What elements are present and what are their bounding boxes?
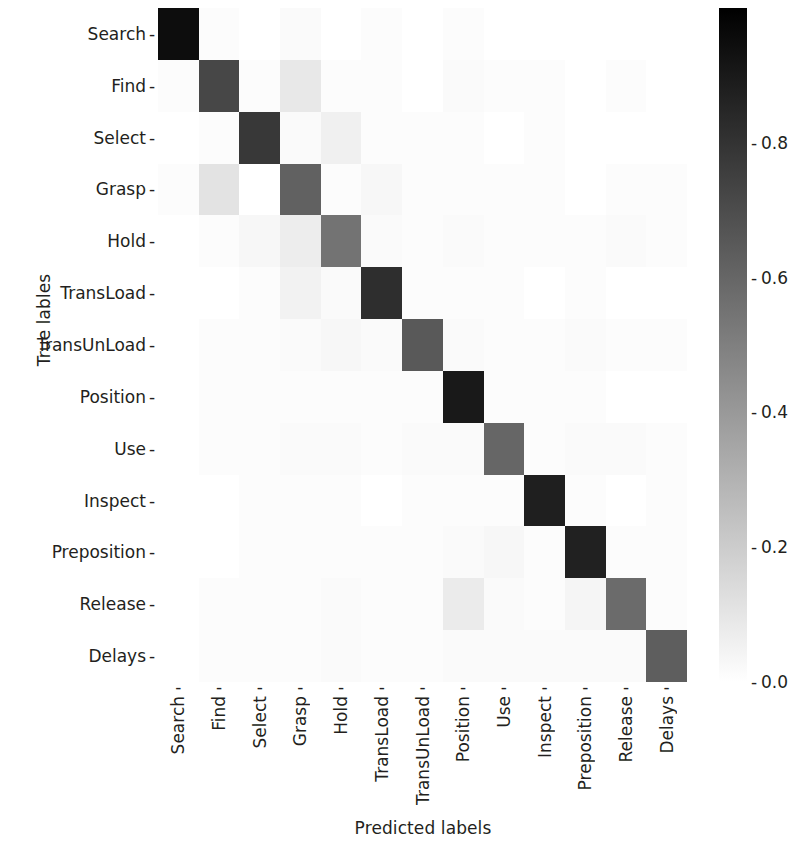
- x-tick-mark: -: [494, 682, 514, 692]
- heatmap-cell: [280, 578, 321, 630]
- heatmap-cell: [361, 526, 402, 578]
- y-tick-label-group: Search-Find-Select-Grasp-Hold-TransLoad-…: [0, 8, 158, 682]
- x-tick-text: TransUnLoad: [413, 696, 433, 805]
- heatmap-cell: [199, 475, 240, 527]
- colorbar-tick: -0.8: [747, 133, 788, 153]
- colorbar-tick-text: 0.0: [761, 672, 788, 692]
- y-tick-label: Use-: [114, 439, 158, 459]
- heatmap-cell: [565, 371, 606, 423]
- y-tick-text: Search: [88, 24, 146, 44]
- heatmap-cell: [565, 475, 606, 527]
- heatmap-row: [158, 526, 687, 578]
- y-tick-mark: -: [146, 439, 158, 459]
- heatmap-cell: [280, 267, 321, 319]
- heatmap-cell: [402, 371, 443, 423]
- heatmap-cell: [606, 630, 647, 682]
- colorbar-tick-text: 0.2: [761, 537, 788, 557]
- heatmap-cell: [524, 578, 565, 630]
- x-tick-text: Preposition: [575, 696, 595, 790]
- heatmap-cell: [606, 319, 647, 371]
- heatmap-cell: [646, 630, 687, 682]
- heatmap-cell: [402, 423, 443, 475]
- heatmap-cell: [158, 526, 199, 578]
- y-tick-mark: -: [146, 491, 158, 511]
- colorbar-tick-mark: -: [747, 133, 761, 153]
- heatmap-cell: [443, 112, 484, 164]
- heatmap-cell: [158, 475, 199, 527]
- heatmap-row: [158, 578, 687, 630]
- x-tick-label: -TransLoad: [372, 682, 392, 808]
- heatmap-row: [158, 112, 687, 164]
- heatmap-cell: [565, 526, 606, 578]
- heatmap-cell: [361, 578, 402, 630]
- x-tick-label: -TransUnLoad: [413, 682, 433, 808]
- heatmap-cell: [646, 319, 687, 371]
- y-tick-label: TransUnLoad-: [37, 335, 158, 355]
- x-tick-label: -Preposition: [575, 682, 595, 808]
- heatmap-cell: [158, 267, 199, 319]
- heatmap-row: [158, 8, 687, 60]
- x-tick-text: Inspect: [535, 696, 555, 758]
- heatmap-cell: [606, 578, 647, 630]
- heatmap-cell: [443, 371, 484, 423]
- heatmap-cell: [158, 164, 199, 216]
- heatmap-cell: [606, 60, 647, 112]
- heatmap-cell: [565, 578, 606, 630]
- heatmap-row: [158, 60, 687, 112]
- heatmap-cell: [565, 60, 606, 112]
- colorbar-tick-mark: -: [747, 268, 761, 288]
- x-tick-text: Release: [616, 696, 636, 762]
- heatmap-cell: [402, 164, 443, 216]
- heatmap-cell: [158, 578, 199, 630]
- x-tick-label: -Select: [250, 682, 270, 808]
- heatmap-cell: [280, 475, 321, 527]
- heatmap-cell: [361, 8, 402, 60]
- heatmap-cell: [402, 319, 443, 371]
- x-tick-label: -Grasp: [290, 682, 310, 808]
- heatmap-cell: [565, 164, 606, 216]
- heatmap-cell: [443, 8, 484, 60]
- heatmap-cell: [646, 371, 687, 423]
- y-tick-label: TransLoad-: [60, 283, 158, 303]
- colorbar-tick-text: 0.8: [761, 133, 788, 153]
- heatmap-cell: [524, 164, 565, 216]
- colorbar-tick-group: -0.8-0.6-0.4-0.2-0.0: [719, 8, 789, 698]
- heatmap-cell: [361, 267, 402, 319]
- heatmap-cell: [280, 526, 321, 578]
- colorbar-tick-text: 0.6: [761, 268, 788, 288]
- heatmap-cell: [321, 475, 362, 527]
- heatmap-cell: [484, 630, 525, 682]
- heatmap-cell: [646, 60, 687, 112]
- heatmap-cell: [484, 215, 525, 267]
- x-tick-mark: -: [209, 682, 229, 692]
- x-tick-label: -Find: [209, 682, 229, 808]
- y-tick-label: Inspect-: [84, 491, 158, 511]
- colorbar-tick-text: 0.4: [761, 402, 788, 422]
- colorbar-tick: -0.0: [747, 672, 788, 692]
- heatmap-cell: [361, 319, 402, 371]
- x-tick-text: Position: [453, 696, 473, 762]
- heatmap-cell: [646, 578, 687, 630]
- y-tick-text: Delays: [88, 646, 146, 666]
- heatmap-cell: [199, 215, 240, 267]
- heatmap-cell: [606, 526, 647, 578]
- heatmap-cell: [524, 423, 565, 475]
- heatmap-row: [158, 215, 687, 267]
- heatmap-cell: [361, 475, 402, 527]
- heatmap-cell: [565, 112, 606, 164]
- y-tick-label: Select-: [94, 128, 158, 148]
- heatmap-cell: [239, 475, 280, 527]
- heatmap-cell: [280, 630, 321, 682]
- y-tick-mark: -: [146, 231, 158, 251]
- heatmap-cell: [565, 630, 606, 682]
- heatmap-cell: [443, 526, 484, 578]
- y-tick-text: Use: [114, 439, 146, 459]
- heatmap-cell: [443, 215, 484, 267]
- heatmap-cell: [565, 215, 606, 267]
- heatmap-cell: [565, 8, 606, 60]
- heatmap-cell: [321, 215, 362, 267]
- heatmap-cell: [239, 578, 280, 630]
- heatmap-cell: [443, 267, 484, 319]
- x-tick-mark: -: [413, 682, 433, 692]
- heatmap-cell: [484, 112, 525, 164]
